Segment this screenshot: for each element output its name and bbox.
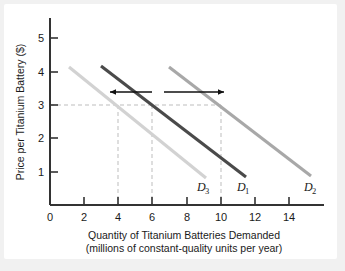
x-axis-ticks (50, 197, 289, 205)
curve-label-d3-subscript: 3 (205, 186, 209, 196)
x-tick-label-4: 4 (115, 211, 121, 223)
y-tick-label-2: 2 (38, 132, 44, 144)
curve-label-d1-subscript: 1 (245, 186, 249, 196)
x-tick-label-2: 2 (81, 211, 87, 223)
y-tick-label-1: 1 (38, 166, 44, 178)
figure-root: D 3 D 1 D 2 (0, 0, 345, 271)
demand-curve-d1 (101, 66, 246, 177)
y-tick-label-5: 5 (38, 32, 44, 44)
y-tick-label-3: 3 (38, 99, 44, 111)
demand-curve-d3 (69, 67, 206, 178)
curve-label-d2-subscript: 2 (312, 186, 316, 196)
x-axis-title-line1: Quantity of Titanium Batteries Demanded (88, 229, 280, 241)
curve-label-d2-group: D 2 (303, 180, 316, 196)
curve-label-d1-group: D 1 (236, 180, 249, 196)
x-tick-label-8: 8 (184, 211, 190, 223)
x-tick-label-10: 10 (215, 211, 227, 223)
x-tick-label-14: 14 (283, 211, 295, 223)
x-tick-label-12: 12 (249, 211, 261, 223)
demand-curve-d2 (169, 67, 311, 176)
y-axis-tick-labels: 5 4 3 2 1 (38, 32, 44, 178)
chart-card: D 3 D 1 D 2 (4, 4, 337, 259)
x-axis-title-line2: (millions of constant-quality units per … (86, 242, 283, 254)
y-tick-label-4: 4 (38, 66, 44, 78)
demand-shift-chart: D 3 D 1 D 2 (4, 4, 337, 259)
x-tick-label-0: 0 (47, 211, 53, 223)
x-axis-tick-labels: 0 2 4 6 8 10 12 14 (47, 211, 295, 223)
y-axis-title: Price per Titanium Battery ($) (14, 44, 26, 181)
demand-curves (69, 66, 311, 178)
curve-label-d3-group: D 3 (196, 180, 209, 196)
y-axis-ticks (50, 38, 58, 172)
x-tick-label-6: 6 (149, 211, 155, 223)
axes (50, 18, 324, 205)
